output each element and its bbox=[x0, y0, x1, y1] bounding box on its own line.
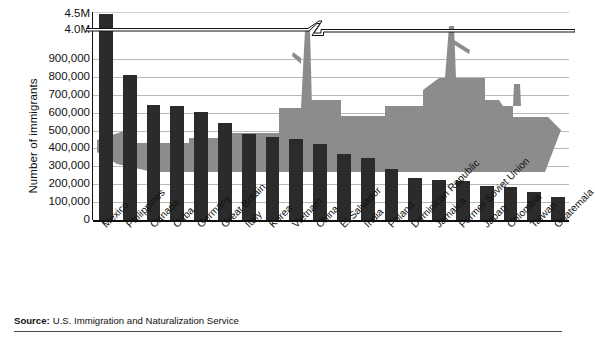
source-note: Source:U.S. Immigration and Naturalizati… bbox=[14, 315, 562, 326]
y-axis-tick: 4.5M bbox=[18, 8, 90, 19]
y-axis-tick: 200,000 bbox=[18, 178, 90, 189]
y-axis-tick-labels: 4.5M4.0M900,000800,000700,000600,000500,… bbox=[18, 0, 90, 240]
y-axis-tick: 400,000 bbox=[18, 142, 90, 153]
y-axis-tick: 100,000 bbox=[18, 196, 90, 207]
y-axis-tick: 600,000 bbox=[18, 107, 90, 118]
bar bbox=[99, 14, 113, 221]
x-axis-category-labels: MexicoPhilippinesCanadaCubaGermanyGreat … bbox=[92, 222, 575, 314]
bottom-rule bbox=[14, 331, 562, 332]
source-label: Source: bbox=[14, 315, 50, 326]
y-axis-tick: 800,000 bbox=[18, 71, 90, 82]
y-axis-tick: 0 bbox=[18, 214, 90, 225]
y-axis-tick: 700,000 bbox=[18, 89, 90, 100]
y-axis-tick: 4.0M bbox=[18, 24, 90, 35]
y-axis-tick: 300,000 bbox=[18, 160, 90, 171]
bar bbox=[123, 75, 137, 220]
y-axis-tick: 900,000 bbox=[18, 53, 90, 64]
bar bbox=[266, 137, 280, 220]
y-axis-tick: 500,000 bbox=[18, 125, 90, 136]
bar bbox=[194, 112, 208, 220]
source-text: U.S. Immigration and Naturalization Serv… bbox=[53, 315, 239, 326]
